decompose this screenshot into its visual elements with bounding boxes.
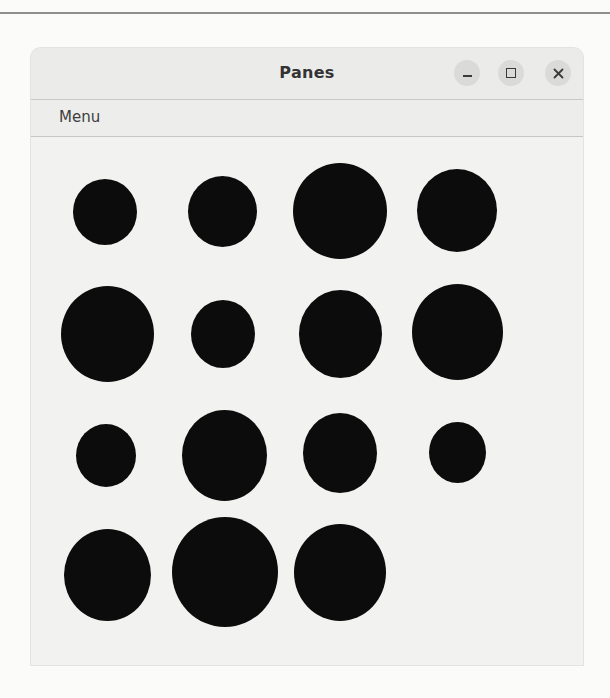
circle-r2-c1 — [61, 286, 154, 382]
minimize-icon — [463, 75, 472, 77]
menu-item-menu[interactable]: Menu — [59, 108, 100, 126]
minimize-button[interactable] — [454, 60, 480, 86]
circle-r3-c1 — [76, 424, 136, 487]
circle-r4-c1 — [64, 529, 151, 621]
maximize-button[interactable] — [498, 60, 524, 86]
circle-r2-c4 — [412, 284, 503, 380]
circle-r1-c2 — [188, 176, 257, 247]
close-icon — [553, 68, 564, 79]
circle-r1-c4 — [417, 169, 497, 252]
page-divider-line — [0, 12, 610, 14]
title-bar[interactable]: Panes — [31, 48, 583, 100]
close-button[interactable] — [545, 60, 571, 86]
maximize-icon — [506, 68, 516, 78]
circle-r2-c3 — [299, 290, 382, 378]
app-window: Panes Menu — [31, 48, 583, 665]
circle-r2-c2 — [191, 300, 255, 368]
circle-r1-c3 — [293, 163, 387, 259]
circle-r4-c2 — [172, 517, 278, 627]
circle-r1-c1 — [73, 179, 137, 245]
circle-r3-c3 — [303, 413, 377, 493]
circle-r3-c4 — [429, 422, 486, 483]
circle-r4-c3 — [294, 524, 386, 621]
circle-r3-c2 — [182, 410, 267, 501]
menu-bar: Menu — [31, 100, 583, 137]
circle-canvas — [31, 137, 583, 665]
